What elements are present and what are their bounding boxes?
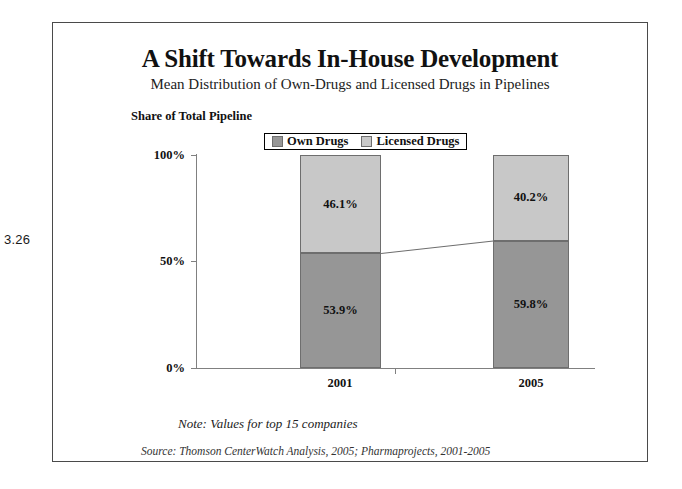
bar-label-own-2005: 59.8% (514, 297, 548, 312)
bar-2005[interactable]: 40.2% 59.8% (493, 155, 569, 368)
bar-2001[interactable]: 46.1% 53.9% (300, 155, 381, 368)
legend-swatch-licensed-drugs (361, 136, 372, 147)
chart-legend: Own Drugs Licensed Drugs (264, 133, 467, 150)
bar-segment-licensed-2001[interactable]: 46.1% (300, 155, 381, 253)
plot-area: 100% 50% 0% 46.1% 53.9% 2001 40.2% (196, 154, 595, 369)
legend-label-own-drugs: Own Drugs (287, 134, 348, 149)
y-tick-50 (191, 261, 196, 262)
x-tick-midpoint (395, 369, 396, 374)
y-tick-0 (191, 368, 196, 369)
legend-swatch-own-drugs (272, 136, 283, 147)
legend-label-licensed-drugs: Licensed Drugs (376, 134, 459, 149)
bar-label-licensed-2001: 46.1% (323, 197, 357, 212)
chart-note: Note: Values for top 15 companies (178, 416, 357, 432)
legend-item-own-drugs: Own Drugs (272, 134, 348, 149)
bar-segment-licensed-2005[interactable]: 40.2% (493, 155, 569, 241)
figure-number: 3.26 (4, 232, 30, 247)
trend-connector-line (381, 241, 493, 255)
chart-title: A Shift Towards In-House Development (53, 45, 647, 73)
y-tick-label-0: 0% (166, 361, 185, 376)
chart-subtitle: Mean Distribution of Own-Drugs and Licen… (53, 76, 647, 93)
chart-source: Source: Thomson CenterWatch Analysis, 20… (141, 445, 490, 457)
y-tick-label-100: 100% (154, 148, 185, 163)
y-tick-label-50: 50% (160, 254, 185, 269)
x-category-label-2001: 2001 (328, 376, 353, 391)
bar-segment-own-2005[interactable]: 59.8% (493, 241, 569, 368)
figure-frame: A Shift Towards In-House Development Mea… (52, 22, 648, 462)
x-category-label-2005: 2005 (519, 376, 544, 391)
bar-label-own-2001: 53.9% (323, 303, 357, 318)
y-axis-title: Share of Total Pipeline (131, 109, 252, 124)
y-axis-line (196, 154, 197, 369)
y-tick-100 (191, 155, 196, 156)
bar-segment-own-2001[interactable]: 53.9% (300, 253, 381, 368)
bar-label-licensed-2005: 40.2% (514, 190, 548, 205)
legend-item-licensed-drugs: Licensed Drugs (361, 134, 459, 149)
